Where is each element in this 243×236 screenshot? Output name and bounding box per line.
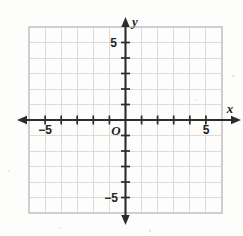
y-axis-arrow-up: [121, 17, 129, 27]
coordinate-plane-svg: y x 5 −5 −5 5 O: [0, 0, 243, 236]
paper-texture: [8, 75, 234, 233]
y-tick-label-5: 5: [110, 36, 117, 50]
x-axis-arrow-right: [231, 116, 241, 124]
y-axis-label: y: [130, 14, 138, 29]
x-tick-label-neg5: −5: [38, 123, 52, 137]
x-axis-arrow-left: [17, 116, 27, 124]
y-axis-arrow-down: [121, 215, 129, 225]
coordinate-plane-figure: y x 5 −5 −5 5 O: [0, 0, 243, 236]
x-axis-label: x: [226, 101, 234, 116]
y-tick-label-neg5: −5: [104, 191, 118, 205]
origin-label: O: [111, 123, 121, 138]
x-tick-label-5: 5: [203, 123, 210, 137]
